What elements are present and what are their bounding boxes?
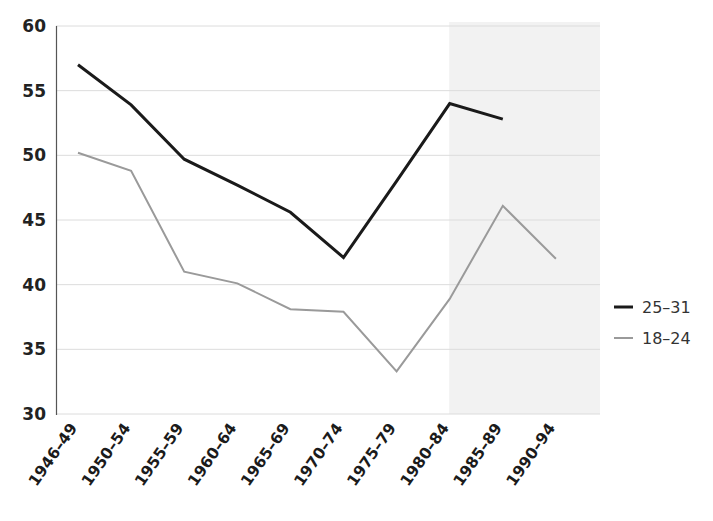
series-line-0 — [78, 65, 503, 258]
shaded-forecast-band — [449, 22, 600, 414]
x-tick-label: 1980–84 — [397, 420, 453, 490]
y-tick-label: 40 — [22, 275, 46, 295]
chart-legend: 25–3118–24 — [614, 298, 691, 348]
x-tick-label: 1950–54 — [78, 420, 134, 490]
x-tick-label: 1970–74 — [290, 420, 346, 490]
y-tick-label: 30 — [22, 404, 46, 424]
x-tick-label: 1985–89 — [450, 420, 506, 490]
x-tick-label: 1946–49 — [25, 420, 81, 490]
line-chart: 30354045505560 1946–491950–541955–591960… — [0, 0, 713, 521]
y-tick-label: 60 — [22, 16, 46, 36]
legend-label-0: 25–31 — [642, 298, 691, 317]
x-tick-labels: 1946–491950–541955–591960–641965–691970–… — [25, 420, 559, 490]
y-tick-labels: 30354045505560 — [22, 16, 46, 424]
y-tick-label: 55 — [22, 81, 46, 101]
legend-label-1: 18–24 — [642, 329, 691, 348]
y-tick-label: 50 — [22, 145, 46, 165]
x-tick-label: 1955–59 — [131, 420, 187, 490]
x-tick-label: 1990–94 — [503, 420, 559, 490]
x-tick-label: 1975–79 — [344, 420, 400, 490]
chart-canvas: 30354045505560 1946–491950–541955–591960… — [0, 0, 713, 521]
x-tick-label: 1965–69 — [237, 420, 293, 490]
y-tick-label: 45 — [22, 210, 46, 230]
y-tick-label: 35 — [22, 339, 46, 359]
x-tick-label: 1960–64 — [184, 420, 240, 490]
forecast-shaded-region — [449, 22, 600, 414]
